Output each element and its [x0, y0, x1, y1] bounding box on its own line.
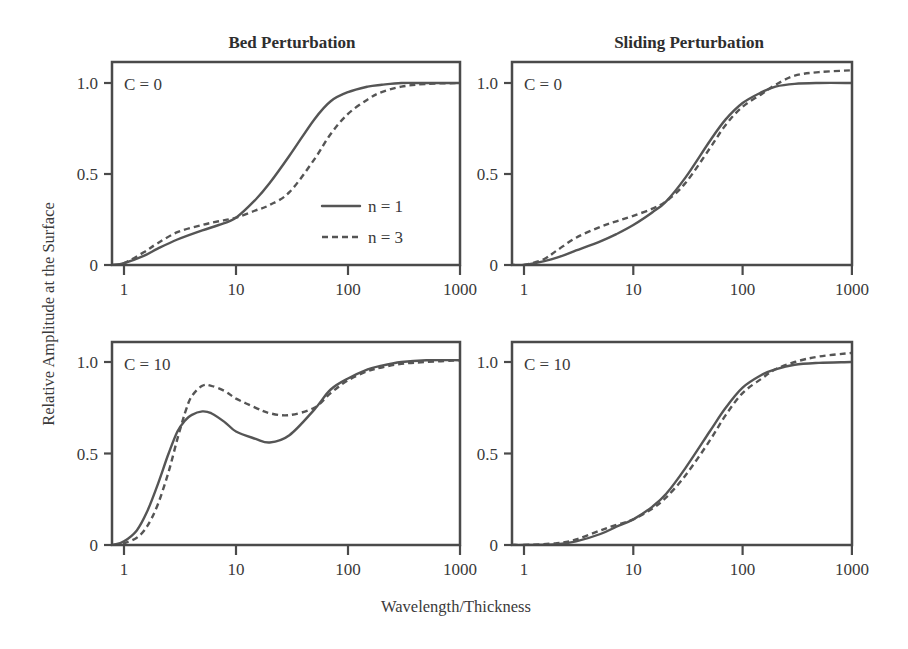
plot-frame: [512, 62, 852, 265]
series-n3-line: [513, 70, 852, 265]
x-tick-label: 1000: [443, 560, 477, 579]
y-axis-label: Relative Amplitude at the Surface: [39, 202, 58, 426]
x-tick-label: 1: [520, 560, 529, 579]
y-tick-label: 0: [490, 256, 499, 275]
panel-label: C = 10: [124, 355, 170, 374]
x-tick-label: 1000: [835, 280, 869, 299]
x-tick-label: 1: [120, 560, 129, 579]
series-n3-line: [513, 353, 852, 545]
figure: Bed Perturbation Sliding Perturbation Re…: [0, 0, 908, 649]
series-n1-line: [113, 360, 460, 545]
legend: n = 1 n = 3: [322, 197, 403, 247]
x-axis-label: Wavelength/Thickness: [381, 597, 531, 616]
y-tick-label: 0: [90, 256, 99, 275]
series-n1-line: [513, 362, 852, 545]
y-tick-label: 0.5: [77, 165, 98, 184]
panel-sliding-c10: 00.51.01101001000C = 10: [477, 342, 869, 579]
x-tick-label: 10: [228, 280, 245, 299]
x-tick-label: 1000: [443, 280, 477, 299]
x-tick-label: 100: [730, 280, 756, 299]
x-tick-label: 1: [520, 280, 529, 299]
title-sliding-perturbation: Sliding Perturbation: [614, 33, 764, 52]
plot-frame: [112, 62, 460, 265]
x-tick-label: 100: [335, 280, 361, 299]
x-tick-label: 100: [730, 560, 756, 579]
y-tick-label: 1.0: [477, 74, 498, 93]
y-tick-label: 1.0: [77, 353, 98, 372]
x-tick-label: 1: [120, 280, 129, 299]
title-bed-perturbation: Bed Perturbation: [228, 33, 356, 52]
y-tick-label: 1.0: [77, 74, 98, 93]
panel-bed-c0: 00.51.01101001000C = 0: [77, 62, 477, 299]
x-tick-label: 1000: [835, 560, 869, 579]
x-tick-label: 10: [625, 280, 642, 299]
y-tick-label: 0: [490, 536, 499, 555]
panel-bed-c10: 00.51.01101001000C = 10: [77, 342, 477, 579]
x-tick-label: 100: [335, 560, 361, 579]
series-n3-line: [113, 83, 460, 265]
panel-sliding-c0: 00.51.01101001000C = 0: [477, 62, 869, 299]
panel-label: C = 0: [524, 75, 562, 94]
legend-label-n3: n = 3: [368, 228, 403, 247]
y-tick-label: 0.5: [477, 445, 498, 464]
series-n3-line: [113, 360, 460, 545]
panel-label: C = 0: [124, 75, 162, 94]
x-tick-label: 10: [228, 560, 245, 579]
y-tick-label: 0.5: [477, 165, 498, 184]
series-n1-line: [513, 83, 852, 265]
panel-label: C = 10: [524, 355, 570, 374]
legend-label-n1: n = 1: [368, 197, 403, 216]
y-tick-label: 0: [90, 536, 99, 555]
y-tick-label: 0.5: [77, 445, 98, 464]
y-tick-label: 1.0: [477, 353, 498, 372]
x-tick-label: 10: [625, 560, 642, 579]
series-n1-line: [113, 83, 460, 265]
